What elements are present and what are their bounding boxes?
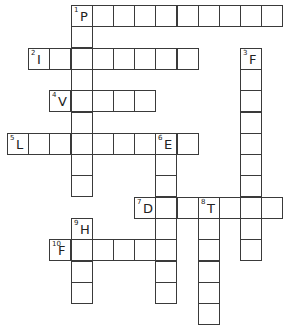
crossword-cell[interactable]: [240, 197, 262, 219]
crossword-cell[interactable]: [198, 303, 220, 325]
crossword-cell[interactable]: [71, 175, 93, 197]
cell-letter: I: [37, 52, 41, 67]
crossword-cell[interactable]: [240, 112, 262, 134]
crossword-cell[interactable]: [198, 282, 220, 304]
crossword-cell[interactable]: [240, 90, 262, 112]
crossword-cell[interactable]: [177, 133, 199, 155]
crossword-cell[interactable]: [134, 90, 156, 112]
clue-number: 1: [74, 6, 78, 14]
crossword-cell[interactable]: [198, 239, 220, 261]
cell-letter: E: [164, 137, 172, 152]
crossword-cell[interactable]: [155, 5, 177, 27]
cell-letter: H: [80, 222, 90, 237]
cell-letter: D: [143, 201, 153, 216]
crossword-cell[interactable]: [113, 90, 135, 112]
crossword-cell[interactable]: [113, 239, 135, 261]
crossword-cell[interactable]: 10F: [49, 239, 71, 261]
crossword-cell[interactable]: [71, 26, 93, 48]
crossword-cell[interactable]: [113, 133, 135, 155]
crossword-cell[interactable]: [261, 5, 283, 27]
crossword-cell[interactable]: [240, 133, 262, 155]
crossword-cell[interactable]: [198, 261, 220, 283]
crossword-cell[interactable]: [219, 5, 241, 27]
crossword-cell[interactable]: 8T: [198, 197, 220, 219]
crossword-cell[interactable]: [240, 239, 262, 261]
crossword-cell[interactable]: [177, 197, 199, 219]
cell-letter: F: [249, 52, 256, 67]
crossword-cell[interactable]: [71, 154, 93, 176]
crossword-cell[interactable]: [92, 133, 114, 155]
crossword-cell[interactable]: [177, 48, 199, 70]
cell-letter: P: [80, 9, 88, 24]
crossword-cell[interactable]: [155, 175, 177, 197]
crossword-cell[interactable]: [92, 48, 114, 70]
crossword-cell[interactable]: [155, 197, 177, 219]
crossword-cell[interactable]: [71, 239, 93, 261]
crossword-cell[interactable]: [240, 175, 262, 197]
crossword-cell[interactable]: [92, 239, 114, 261]
crossword-cell[interactable]: [219, 197, 241, 219]
crossword-grid: 1P2I3F4V5L6E7D8T9H10F: [0, 0, 287, 329]
crossword-cell[interactable]: [198, 5, 220, 27]
cell-letter: V: [58, 94, 67, 109]
crossword-cell[interactable]: 7D: [134, 197, 156, 219]
clue-number: 5: [10, 134, 14, 142]
crossword-cell[interactable]: [240, 154, 262, 176]
crossword-cell[interactable]: [71, 261, 93, 283]
crossword-cell[interactable]: [198, 218, 220, 240]
crossword-cell[interactable]: [28, 133, 50, 155]
crossword-cell[interactable]: [92, 5, 114, 27]
crossword-cell[interactable]: [155, 48, 177, 70]
crossword-cell[interactable]: [113, 5, 135, 27]
clue-number: 4: [52, 91, 56, 99]
clue-number: 9: [74, 219, 78, 227]
crossword-cell[interactable]: 4V: [49, 90, 71, 112]
crossword-cell[interactable]: [155, 282, 177, 304]
crossword-cell[interactable]: [240, 218, 262, 240]
crossword-cell[interactable]: [71, 69, 93, 91]
crossword-cell[interactable]: [155, 239, 177, 261]
crossword-cell[interactable]: 3F: [240, 48, 262, 70]
crossword-cell[interactable]: [113, 48, 135, 70]
crossword-cell[interactable]: [71, 282, 93, 304]
cell-letter: T: [207, 201, 215, 216]
crossword-cell[interactable]: [134, 48, 156, 70]
crossword-cell[interactable]: 6E: [155, 133, 177, 155]
crossword-cell[interactable]: [71, 112, 93, 134]
crossword-cell[interactable]: 9H: [71, 218, 93, 240]
crossword-cell[interactable]: [240, 69, 262, 91]
cell-letter: L: [16, 137, 23, 152]
crossword-cell[interactable]: 5L: [7, 133, 29, 155]
cell-letter: F: [58, 243, 65, 258]
crossword-cell[interactable]: [155, 261, 177, 283]
crossword-cell[interactable]: [71, 90, 93, 112]
crossword-cell[interactable]: [261, 197, 283, 219]
clue-number: 8: [201, 198, 205, 206]
clue-number: 7: [137, 198, 141, 206]
crossword-cell[interactable]: [71, 48, 93, 70]
crossword-cell[interactable]: [155, 154, 177, 176]
crossword-cell[interactable]: [155, 218, 177, 240]
crossword-cell[interactable]: [71, 133, 93, 155]
crossword-cell[interactable]: [134, 133, 156, 155]
clue-number: 6: [158, 134, 162, 142]
crossword-cell[interactable]: 2I: [28, 48, 50, 70]
crossword-cell[interactable]: [49, 48, 71, 70]
crossword-cell[interactable]: [49, 133, 71, 155]
clue-number: 2: [31, 49, 35, 57]
crossword-cell[interactable]: [177, 5, 199, 27]
crossword-cell[interactable]: [92, 90, 114, 112]
crossword-cell[interactable]: [240, 5, 262, 27]
crossword-cell[interactable]: [134, 239, 156, 261]
crossword-cell[interactable]: 1P: [71, 5, 93, 27]
crossword-cell[interactable]: [134, 5, 156, 27]
clue-number: 3: [243, 49, 247, 57]
